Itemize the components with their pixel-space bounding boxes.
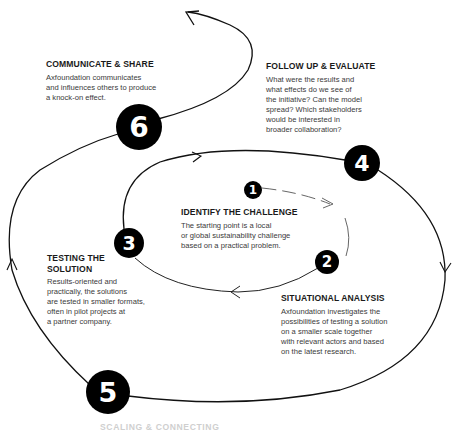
step-5-badge: 5 (86, 370, 130, 414)
step-2-badge: 2 (315, 250, 339, 274)
step-3-body: Results-oriented andpractically, the sol… (47, 277, 167, 327)
step-1-body: The starting point is a localor global s… (181, 221, 316, 251)
step-1-badge: 1 (244, 181, 262, 199)
step-follow-up-evaluate: FOLLOW UP & EVALUATE What were the resul… (266, 61, 396, 135)
step-5-title: SCALING & CONNECTING (100, 422, 219, 432)
step-4-body: What were the results andwhat effects do… (266, 75, 396, 135)
step-4-badge: 4 (344, 145, 380, 181)
step-identify-challenge: IDENTIFY THE CHALLENGE The starting poin… (181, 207, 316, 251)
step-3-title: TESTING THESOLUTION (47, 253, 167, 274)
step-communicate-share: COMMUNICATE & SHARE Axfoundation communi… (46, 59, 186, 103)
step-situational-analysis: SITUATIONAL ANALYSIS Axfoundation invest… (281, 293, 411, 357)
step-2-title: SITUATIONAL ANALYSIS (281, 293, 411, 304)
step-4-title: FOLLOW UP & EVALUATE (266, 61, 396, 72)
step-6-title: COMMUNICATE & SHARE (46, 59, 186, 70)
step-6-badge: 6 (116, 104, 162, 150)
step-2-body: Axfoundation investigates thepossibiliti… (281, 307, 411, 357)
step-1-title: IDENTIFY THE CHALLENGE (181, 207, 316, 218)
step-6-body: Axfoundation communicatesand influences … (46, 73, 186, 103)
step-testing-solution: TESTING THESOLUTION Results-oriented and… (47, 253, 167, 327)
